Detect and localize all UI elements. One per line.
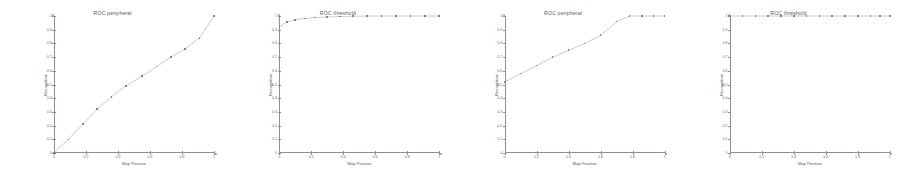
y-axis-tick-label: 0.2 [497,124,502,128]
data-point-marker [857,15,859,17]
data-point-marker [629,15,631,17]
data-point-marker [424,15,426,17]
series-line [54,16,214,153]
x-axis-tick-label: 0.8 [855,155,860,159]
y-axis-tick-label: 1 [500,14,502,18]
chart-panel: ROC threshold00.10.20.30.40.50.60.70.80.… [225,0,450,185]
y-axis-tick-label: 0.9 [723,28,728,32]
y-axis-tick-label: 0.3 [47,110,52,114]
data-point-marker [767,15,769,17]
x-axis-tick-label: 0.4 [791,155,796,159]
data-point-marker [339,16,341,18]
x-axis-tick [665,151,666,154]
data-point-marker [793,15,795,17]
data-point-marker [199,37,201,39]
x-axis-tick-label: 0.6 [373,155,378,159]
x-axis-tick-label: 0.4 [566,155,571,159]
y-axis-tick-label: 0 [726,151,728,155]
y-axis-tick-label: 0.2 [723,124,728,128]
y-axis-tick-label: 0.9 [497,28,502,32]
y-axis-tick-label: 0.8 [272,41,277,45]
y-axis-tick-label: 0.7 [272,55,277,59]
data-point-marker [889,15,891,17]
data-point-marker [381,15,383,17]
data-point-marker [806,15,808,17]
x-axis-tick-label: 0.4 [341,155,346,159]
plot-area: 00.10.20.30.40.50.60.70.80.9100.20.40.60… [54,16,214,153]
data-point-marker [352,15,354,17]
data-point-marker [641,15,643,17]
x-axis-tick [439,151,440,154]
y-axis-tick-label: 0.1 [723,137,728,141]
y-axis-tick-label: 0.7 [47,55,52,59]
x-axis-tick [214,151,215,154]
data-point-marker [438,15,440,17]
series-line [505,16,665,82]
data-point-marker [314,17,316,19]
x-axis-tick-label: 1 [889,155,891,159]
data-point-marker [96,108,98,110]
y-axis-tick-label: 0.6 [497,69,502,73]
x-axis-tick-label: 0 [53,155,55,159]
y-axis-tick-label: 1 [50,14,52,18]
data-point-marker [584,43,586,45]
data-point-marker [68,139,70,141]
y-axis-tick-label: 0 [50,151,52,155]
data-point-marker [879,15,881,17]
y-axis-label: Recognition [718,73,723,95]
data-point-marker [184,48,186,50]
x-axis-tick-label: 0.2 [84,155,89,159]
x-axis-tick-label: 0.2 [759,155,764,159]
x-axis-tick-label: 0 [504,155,506,159]
y-axis-tick-label: 0.3 [497,110,502,114]
plot-area: 00.10.20.30.40.50.60.70.80.9100.20.40.60… [505,16,665,153]
y-axis-tick-label: 0.1 [272,137,277,141]
x-axis-tick [890,151,891,154]
x-axis-tick-label: 0.8 [180,155,185,159]
y-axis-tick-label: 0 [275,151,277,155]
data-point-marker [82,123,84,125]
y-axis-tick-label: 0.2 [47,124,52,128]
x-axis-label: Map Position [54,161,214,166]
y-axis-tick-label: 0.8 [723,41,728,45]
data-point-marker [755,15,757,17]
y-axis-tick-label: 0.6 [272,69,277,73]
y-axis-label: Recognition [43,73,48,95]
data-point-marker [819,15,821,17]
x-axis-tick-label: 0.6 [148,155,153,159]
x-axis-tick-label: 0.6 [823,155,828,159]
data-point-marker [536,65,538,67]
data-point-marker [53,152,55,154]
y-axis-tick-label: 0.6 [47,69,52,73]
data-series [505,16,665,153]
x-axis-label: Map Position [279,161,439,166]
y-axis-tick-label: 0.9 [47,28,52,32]
data-point-marker [170,56,172,58]
data-point-marker [294,19,296,21]
y-axis-tick-label: 0.2 [272,124,277,128]
y-axis-tick-label: 0.8 [497,41,502,45]
data-point-marker [279,26,281,28]
x-axis-tick-label: 0 [729,155,731,159]
plot-area: 00.10.20.30.40.50.60.70.80.9100.20.40.60… [730,16,890,153]
y-axis-tick-label: 1 [726,14,728,18]
y-axis-tick-label: 0.4 [47,96,52,100]
data-point-marker [156,66,158,68]
data-point-marker [141,75,143,77]
data-point-marker [504,81,506,83]
roc-figure-panel-grid: ROC peripheral00.10.20.30.40.50.60.70.80… [0,0,901,185]
data-point-marker [568,49,570,51]
data-point-marker [870,15,872,17]
data-point-marker [742,15,744,17]
x-axis-tick-label: 0.4 [116,155,121,159]
data-point-marker [664,15,666,17]
x-axis-label: Map Position [730,161,890,166]
y-axis-tick-label: 0.3 [272,110,277,114]
data-point-marker [844,15,846,17]
data-point-marker [286,21,288,23]
y-axis-tick-label: 0.1 [497,137,502,141]
x-axis-label: Map Position [505,161,665,166]
chart-panel: ROC peripheral00.10.20.30.40.50.60.70.80… [0,0,225,185]
data-point-marker [600,34,602,36]
data-point-marker [729,15,731,17]
